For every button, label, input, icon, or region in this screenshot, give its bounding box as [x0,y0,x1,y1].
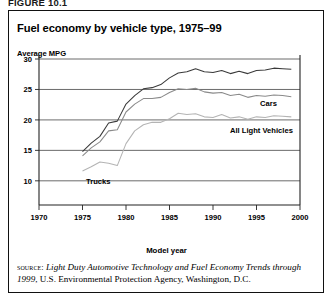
figure-number: FIGURE 10.1 [8,0,67,8]
series-label-trucks: Trucks [86,177,110,186]
x-tick-label: 1995 [248,213,266,222]
y-tick-label: 20 [24,116,32,125]
x-tick-label: 1970 [31,213,48,222]
series-label-cars: Cars [260,99,277,108]
x-tick-label: 1980 [118,213,135,222]
source-label: source: [17,262,44,272]
x-tick-label: 1975 [74,213,92,222]
source-note: source: Light Duty Automotive Technology… [17,261,317,285]
y-tick-label: 15 [24,146,33,155]
x-tick-label: 1990 [205,213,222,222]
x-tick-label: 1985 [161,213,179,222]
series-label-all-light-vehicles: All Light Vehicles [230,126,293,135]
y-tick-label: 10 [24,177,32,186]
series-line-cars [83,68,292,151]
y-tick-label: 30 [24,55,32,64]
x-tick-label: 2000 [292,213,309,222]
source-publisher: , U.S. Environmental Protection Agency, … [35,274,250,284]
x-axis-title: Model year [0,246,333,255]
chart-plot: 10152025301970197519801985199019952000Ca… [8,10,324,250]
y-tick-label: 25 [24,85,33,94]
figure-container: FIGURE 10.1 Fuel economy by vehicle type… [0,0,333,296]
